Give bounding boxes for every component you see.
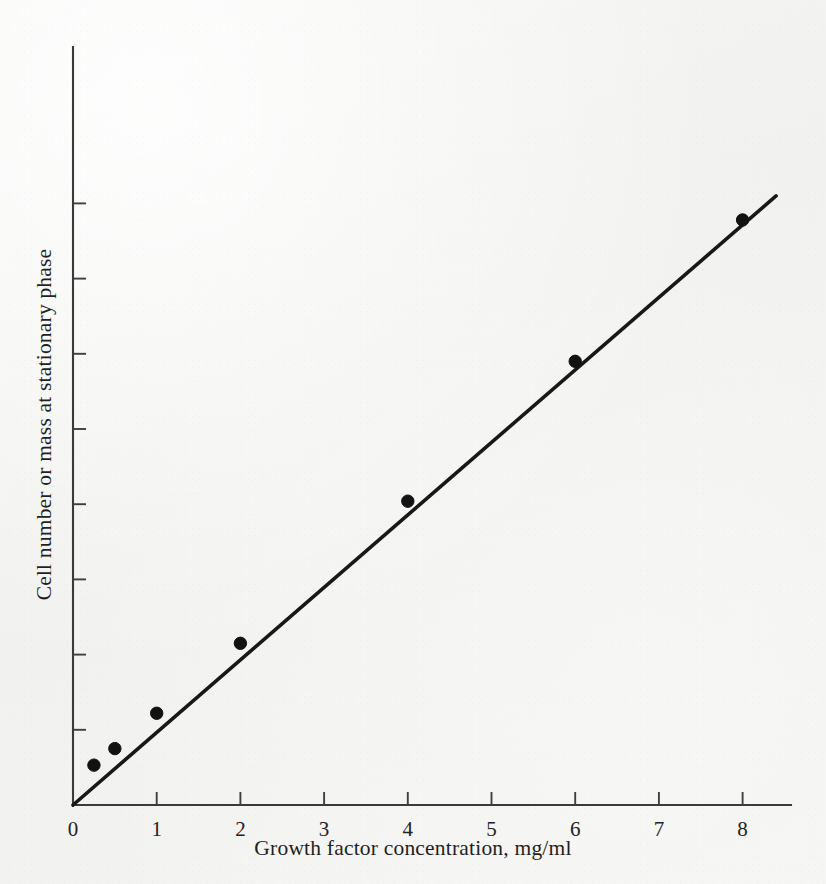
figure-root: 012345678 Growth factor concentration, m… (0, 0, 826, 884)
series-point-group (88, 214, 749, 772)
series-data-point (736, 214, 748, 226)
series-line (73, 196, 776, 805)
series-data-point (151, 707, 163, 719)
x-axis-title: Growth factor concentration, mg/ml (0, 836, 826, 861)
series-data-point (569, 355, 581, 367)
plot-canvas: 012345678 (0, 0, 826, 884)
series-data-point (402, 495, 414, 507)
data-series-group (73, 196, 776, 805)
series-data-point (109, 742, 121, 754)
series-data-point (234, 637, 246, 649)
x-tick-group (157, 792, 743, 805)
y-tick-group (73, 203, 86, 729)
y-axis-title: Cell number or mass at stationary phase (32, 165, 57, 685)
axes-group (73, 47, 791, 806)
series-data-point (88, 759, 100, 771)
